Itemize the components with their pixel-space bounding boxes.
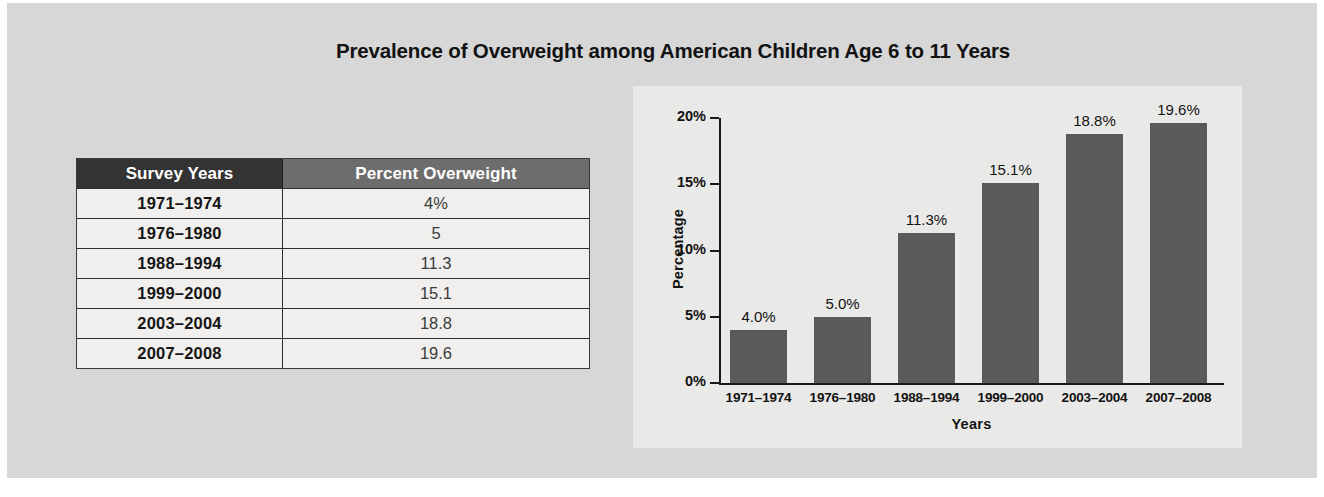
cell-percent-overweight: 5 bbox=[283, 219, 590, 249]
plot-area: 0%5%10%15%20%4.0%1971–19745.0%1976–19801… bbox=[719, 118, 1224, 383]
x-tick-label: 1971–1974 bbox=[726, 390, 792, 405]
cell-percent-overweight: 4% bbox=[283, 189, 590, 219]
bar: 18.8%2003–2004 bbox=[1066, 134, 1123, 383]
x-tick-label: 1976–1980 bbox=[810, 390, 876, 405]
x-tick-label: 1999–2000 bbox=[978, 390, 1044, 405]
bar-value-label: 11.3% bbox=[906, 211, 947, 228]
y-tick-label: 10% bbox=[677, 241, 706, 257]
cell-percent-overweight: 11.3 bbox=[283, 249, 590, 279]
y-tick-mark bbox=[710, 250, 719, 252]
column-header-survey-years: Survey Years bbox=[77, 159, 283, 189]
y-axis-line bbox=[719, 118, 721, 383]
cell-survey-years: 1976–1980 bbox=[77, 219, 283, 249]
cell-percent-overweight: 15.1 bbox=[283, 279, 590, 309]
cell-survey-years: 1999–2000 bbox=[77, 279, 283, 309]
y-tick-mark bbox=[710, 117, 719, 119]
table-row: 1988–1994 11.3 bbox=[77, 249, 589, 279]
bar-chart: Percentage 0%5%10%15%20%4.0%1971–19745.0… bbox=[633, 86, 1242, 448]
y-tick-label: 0% bbox=[685, 373, 706, 389]
y-tick-label: 20% bbox=[677, 108, 706, 124]
table-header-row: Survey Years Percent Overweight bbox=[77, 159, 589, 189]
bar: 15.1%1999–2000 bbox=[982, 183, 1039, 383]
bar-value-label: 15.1% bbox=[989, 161, 1032, 178]
x-axis-label: Years bbox=[719, 416, 1224, 432]
y-tick-mark bbox=[710, 183, 719, 185]
table-row: 1971–1974 4% bbox=[77, 189, 589, 219]
table-row: 1999–2000 15.1 bbox=[77, 279, 589, 309]
y-tick-label: 15% bbox=[677, 174, 706, 190]
table-body: 1971–1974 4% 1976–1980 5 1988–1994 11.3 … bbox=[77, 189, 589, 369]
cell-survey-years: 2007–2008 bbox=[77, 339, 283, 369]
y-tick-mark bbox=[710, 316, 719, 318]
cell-survey-years: 1988–1994 bbox=[77, 249, 283, 279]
bar: 11.3%1988–1994 bbox=[898, 233, 955, 383]
cell-survey-years: 2003–2004 bbox=[77, 309, 283, 339]
column-header-percent-overweight: Percent Overweight bbox=[283, 159, 590, 189]
page-title: Prevalence of Overweight among American … bbox=[7, 39, 1317, 63]
table-header: Survey Years Percent Overweight bbox=[77, 159, 589, 189]
x-tick-label: 2007–2008 bbox=[1146, 390, 1212, 405]
figure-page: Prevalence of Overweight among American … bbox=[7, 3, 1317, 478]
cell-survey-years: 1971–1974 bbox=[77, 189, 283, 219]
bar-value-label: 18.8% bbox=[1073, 112, 1116, 129]
y-tick-mark bbox=[710, 382, 719, 384]
table-row: 2003–2004 18.8 bbox=[77, 309, 589, 339]
cell-percent-overweight: 18.8 bbox=[283, 309, 590, 339]
bar-value-label: 5.0% bbox=[825, 295, 859, 312]
bar-value-label: 4.0% bbox=[741, 308, 775, 325]
table-row: 1976–1980 5 bbox=[77, 219, 589, 249]
bar-value-label: 19.6% bbox=[1157, 101, 1200, 118]
x-tick-label: 2003–2004 bbox=[1062, 390, 1128, 405]
y-tick-label: 5% bbox=[685, 307, 706, 323]
bar: 5.0%1976–1980 bbox=[814, 317, 871, 383]
table-row: 2007–2008 19.6 bbox=[77, 339, 589, 369]
cell-percent-overweight: 19.6 bbox=[283, 339, 590, 369]
bar: 4.0%1971–1974 bbox=[730, 330, 787, 383]
prevalence-data-table: Survey Years Percent Overweight 1971–197… bbox=[77, 159, 589, 368]
x-axis-line bbox=[719, 383, 1224, 385]
bar: 19.6%2007–2008 bbox=[1150, 123, 1207, 383]
x-tick-label: 1988–1994 bbox=[894, 390, 960, 405]
